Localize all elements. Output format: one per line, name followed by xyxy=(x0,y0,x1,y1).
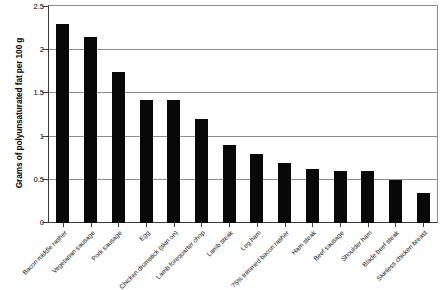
x-tick-mark xyxy=(395,223,396,227)
y-tick-label: 0.5 xyxy=(10,175,44,184)
x-tick-mark xyxy=(423,223,424,227)
x-tick-mark xyxy=(91,223,92,227)
x-tick-mark xyxy=(146,223,147,227)
bar xyxy=(361,171,374,223)
x-tick-label: Bacon middle rasher xyxy=(0,229,68,290)
x-tick-mark xyxy=(312,223,313,227)
bar xyxy=(250,154,263,223)
y-axis-title: Grams of polyunsaturated fat per 100 g xyxy=(14,0,24,228)
x-tick-mark xyxy=(174,223,175,227)
bars-group xyxy=(49,6,437,223)
x-tick-mark xyxy=(285,223,286,227)
y-tick-label: 2.5 xyxy=(10,2,44,11)
bar xyxy=(84,37,97,223)
bar xyxy=(306,169,319,223)
x-tick-mark xyxy=(118,223,119,227)
bar xyxy=(140,100,153,223)
bar xyxy=(223,145,236,223)
bar xyxy=(334,171,347,223)
x-tick-mark xyxy=(340,223,341,227)
y-tick-label: 2 xyxy=(10,45,44,54)
bar xyxy=(112,72,125,223)
x-tick-mark xyxy=(368,223,369,227)
bar xyxy=(56,24,69,223)
bar xyxy=(278,163,291,223)
bar xyxy=(389,180,402,223)
x-tick-mark xyxy=(201,223,202,227)
y-tick-label: 1.5 xyxy=(10,88,44,97)
y-tick-label: 1 xyxy=(10,132,44,141)
y-tick-label: 0 xyxy=(10,218,44,227)
x-tick-mark xyxy=(257,223,258,227)
bar xyxy=(195,119,208,223)
bar xyxy=(167,100,180,223)
x-tick-mark xyxy=(229,223,230,227)
x-tick-mark xyxy=(63,223,64,227)
bar-chart: Grams of polyunsaturated fat per 100 g 0… xyxy=(0,0,441,290)
bar xyxy=(417,193,430,223)
